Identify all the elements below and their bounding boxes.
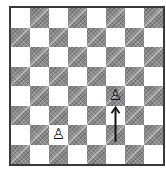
square-e6[interactable] xyxy=(87,47,106,67)
square-c8[interactable] xyxy=(49,8,68,28)
square-c6[interactable] xyxy=(49,47,68,67)
square-c5[interactable] xyxy=(49,67,68,87)
square-e5[interactable] xyxy=(87,67,106,87)
square-f8[interactable] xyxy=(106,8,125,28)
square-e2[interactable] xyxy=(87,125,106,145)
square-d1[interactable] xyxy=(68,145,87,165)
square-a3[interactable] xyxy=(11,106,30,126)
square-e7[interactable] xyxy=(87,28,106,48)
square-d2[interactable] xyxy=(68,125,87,145)
square-f4[interactable]: ♙ xyxy=(106,86,125,106)
square-e8[interactable] xyxy=(87,8,106,28)
square-c2[interactable]: ♙ xyxy=(49,125,68,145)
square-d3[interactable] xyxy=(68,106,87,126)
square-g4[interactable] xyxy=(125,86,144,106)
square-d4[interactable] xyxy=(68,86,87,106)
square-h4[interactable] xyxy=(144,86,163,106)
square-a4[interactable] xyxy=(11,86,30,106)
square-d8[interactable] xyxy=(68,8,87,28)
square-b6[interactable] xyxy=(30,47,49,67)
square-e3[interactable] xyxy=(87,106,106,126)
square-b3[interactable] xyxy=(30,106,49,126)
square-d7[interactable] xyxy=(68,28,87,48)
square-b2[interactable] xyxy=(30,125,49,145)
square-f2[interactable] xyxy=(106,125,125,145)
square-b7[interactable] xyxy=(30,28,49,48)
square-a7[interactable] xyxy=(11,28,30,48)
square-g3[interactable] xyxy=(125,106,144,126)
square-f3[interactable] xyxy=(106,106,125,126)
square-h3[interactable] xyxy=(144,106,163,126)
square-c1[interactable] xyxy=(49,145,68,165)
square-h6[interactable] xyxy=(144,47,163,67)
square-b8[interactable] xyxy=(30,8,49,28)
square-g2[interactable] xyxy=(125,125,144,145)
square-h1[interactable] xyxy=(144,145,163,165)
square-f1[interactable] xyxy=(106,145,125,165)
square-b1[interactable] xyxy=(30,145,49,165)
square-c3[interactable] xyxy=(49,106,68,126)
square-h8[interactable] xyxy=(144,8,163,28)
square-d6[interactable] xyxy=(68,47,87,67)
square-g8[interactable] xyxy=(125,8,144,28)
square-g7[interactable] xyxy=(125,28,144,48)
square-g1[interactable] xyxy=(125,145,144,165)
square-a6[interactable] xyxy=(11,47,30,67)
square-c4[interactable] xyxy=(49,86,68,106)
white-pawn-icon[interactable]: ♙ xyxy=(49,125,68,145)
square-a2[interactable] xyxy=(11,125,30,145)
square-d5[interactable] xyxy=(68,67,87,87)
square-g5[interactable] xyxy=(125,67,144,87)
square-h7[interactable] xyxy=(144,28,163,48)
square-c7[interactable] xyxy=(49,28,68,48)
square-f6[interactable] xyxy=(106,47,125,67)
square-e4[interactable] xyxy=(87,86,106,106)
square-a8[interactable] xyxy=(11,8,30,28)
square-e1[interactable] xyxy=(87,145,106,165)
square-a5[interactable] xyxy=(11,67,30,87)
square-b5[interactable] xyxy=(30,67,49,87)
square-f5[interactable] xyxy=(106,67,125,87)
chess-board[interactable]: ♙♙ xyxy=(9,6,165,166)
square-f7[interactable] xyxy=(106,28,125,48)
square-h5[interactable] xyxy=(144,67,163,87)
square-g6[interactable] xyxy=(125,47,144,67)
square-a1[interactable] xyxy=(11,145,30,165)
square-b4[interactable] xyxy=(30,86,49,106)
white-pawn-icon[interactable]: ♙ xyxy=(106,86,125,106)
square-h2[interactable] xyxy=(144,125,163,145)
